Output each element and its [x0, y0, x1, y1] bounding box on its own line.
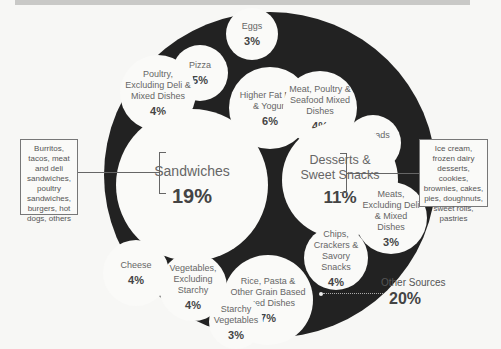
bubble-meats-excl: Meats, Excluding Deli & Mixed Dishes 3% [355, 182, 427, 254]
bubble-label: Starchy Vegetables [211, 304, 261, 326]
bubble-label: Meat, Poultry & Seafood Mixed Dishes [286, 84, 354, 117]
other-sources-percent: 20% [389, 290, 421, 308]
bubble-percent: 3% [228, 329, 244, 341]
bubble-label: Chips, Crackers & Savory Snacks [312, 229, 360, 273]
bubble-label: Meats, Excluding Deli & Mixed Dishes [361, 189, 421, 233]
bubble-label: Eggs [242, 21, 263, 32]
bubble-label: Desserts & Sweet Snacks [296, 153, 384, 183]
other-sources-label: Other Sources [381, 277, 445, 288]
bubble-eggs: Eggs 3% [226, 8, 278, 60]
bubble-label: Pizza [189, 60, 211, 71]
bubble-percent: 4% [128, 274, 144, 286]
bubble-percent: 4% [328, 276, 344, 288]
top-strip [15, 0, 470, 5]
bubble-percent: 6% [262, 115, 278, 127]
sandwiches-bracket-bottom [159, 193, 166, 194]
desserts-bracket-bottom [340, 192, 347, 193]
sandwiches-bracket-vertical [159, 152, 160, 194]
bubble-percent: 3% [244, 35, 260, 47]
desserts-bracket-top [340, 153, 347, 154]
bubble-label: Sandwiches [154, 163, 230, 179]
sandwiches-bracket-top [159, 152, 166, 153]
bubble-sandwiches: Sandwiches 19% [116, 109, 268, 261]
bubble-label: Poultry, Excluding Deli & Mixed Dishes [124, 69, 192, 102]
bubble-label: Vegetables, Excluding Starchy [165, 263, 221, 296]
bubble-starchy-vegetables: Starchy Vegetables 3% [209, 295, 263, 349]
bubble-percent: 3% [383, 236, 399, 248]
bubble-cheese: Cheese 4% [103, 240, 169, 306]
sandwiches-callout: Burritos, tacos, meat and deli sandwiche… [20, 139, 78, 215]
bubble-percent: 19% [172, 185, 212, 208]
desserts-callout: Ice cream, frozen dairy desserts, cookie… [419, 139, 488, 207]
bubble-label: Cheese [120, 260, 151, 271]
bubble-percent: 11% [323, 188, 356, 208]
sandwiches-connector [78, 172, 159, 173]
bubble-percent: 4% [185, 299, 201, 311]
other-sources-leader [323, 293, 383, 294]
bubble-chips: Chips, Crackers & Savory Snacks 4% [304, 226, 368, 290]
desserts-connector [346, 173, 419, 174]
